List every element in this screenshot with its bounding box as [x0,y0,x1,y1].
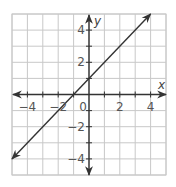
y-tick-label: −4 [67,152,85,166]
coordinate-plane: x y −4−202442−2−4 [0,0,176,187]
y-tick-label: 2 [77,55,85,69]
y-axis-label: y [93,14,102,28]
x-tick-label: 2 [116,100,124,114]
x-tick-label: 0 [79,100,87,114]
x-tick-label: −4 [19,100,37,114]
x-axis-label: x [157,78,166,92]
y-tick-label: −2 [67,120,85,134]
x-tick-label: 4 [147,100,155,114]
x-tick-label: −2 [49,100,67,114]
axes [13,15,166,175]
y-tick-label: 4 [77,23,85,37]
